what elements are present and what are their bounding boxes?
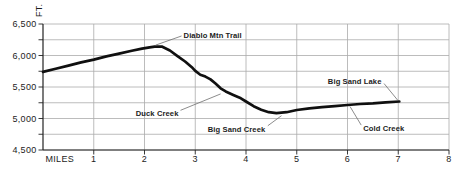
x-tick-label: 4: [243, 154, 248, 164]
y-tick-label: 5,500: [12, 82, 36, 92]
annotation-label-diablo-mtn-trail: Diablo Mtn Trail: [184, 31, 242, 40]
x-tick-label: 6: [345, 154, 350, 164]
x-tick-label: 1: [91, 154, 96, 164]
chart-canvas: 123456786,5006,0005,5005,0004,500MILESFT…: [0, 0, 468, 174]
x-tick-label: 5: [294, 154, 299, 164]
y-axis-title: FT.: [34, 4, 44, 17]
x-tick-label: 7: [396, 154, 401, 164]
x-tick-label: 3: [193, 154, 198, 164]
x-tick-label: 2: [142, 154, 147, 164]
y-tick-label: 6,000: [12, 51, 36, 61]
x-axis-title: MILES: [46, 154, 75, 164]
elevation-profile-chart: 123456786,5006,0005,5005,0004,500MILESFT…: [0, 0, 468, 174]
y-tick-label: 4,500: [12, 145, 36, 155]
y-tick-label: 6,500: [12, 19, 36, 29]
annotation-label-duck-creek: Duck Creek: [136, 109, 179, 118]
x-tick-label: 8: [446, 154, 451, 164]
annotation-label-big-sand-lake: Big Sand Lake: [328, 77, 382, 86]
annotation-label-cold-creek: Cold Creek: [363, 124, 405, 133]
annotation-label-big-sand-creek: Big Sand Creek: [208, 125, 266, 134]
y-tick-label: 5,000: [12, 114, 36, 124]
